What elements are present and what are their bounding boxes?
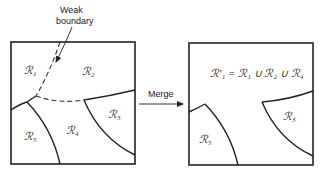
region-label-r2: ℛ2 <box>82 65 95 79</box>
after-panel: ℛ′₁ = ℛ₁ ∪ ℛ₂ ∪ ℛ₄ ℛ3 ℛ5 <box>189 43 313 165</box>
region-label-r3: ℛ3 <box>108 108 121 122</box>
region-label-r4: ℛ4 <box>66 124 79 138</box>
region-label-r5-after: ℛ5 <box>199 133 212 147</box>
weak-boundary-pointer-arrow <box>56 27 72 62</box>
region-merge-diagram: Weak boundary ℛ1 ℛ2 ℛ3 ℛ4 ℛ5 Merge ℛ′₁ =… <box>0 0 322 177</box>
merge-label: Merge <box>148 89 174 99</box>
boundary-r3-top <box>262 91 313 102</box>
weak-boundary-r1-r4 <box>36 96 84 101</box>
weak-boundary-r1-r2 <box>36 42 60 96</box>
boundary-r2-r3 <box>84 90 135 100</box>
boundary-r5-top <box>189 104 205 112</box>
boundary-r1-r5-left <box>11 102 27 110</box>
before-frame <box>11 42 135 164</box>
merged-region-label: ℛ′₁ = ℛ₁ ∪ ℛ₂ ∪ ℛ₄ <box>210 67 304 79</box>
weak-boundary-label-line1: Weak <box>60 5 83 15</box>
region-label-r1: ℛ1 <box>24 64 37 78</box>
weak-boundary-label-line2: boundary <box>56 16 94 26</box>
boundary-r5-right <box>205 104 238 165</box>
before-panel: ℛ1 ℛ2 ℛ3 ℛ4 ℛ5 <box>11 42 135 164</box>
region-label-r5: ℛ5 <box>24 130 37 144</box>
boundary-junction <box>27 96 36 102</box>
region-label-r3-after: ℛ3 <box>283 110 296 124</box>
